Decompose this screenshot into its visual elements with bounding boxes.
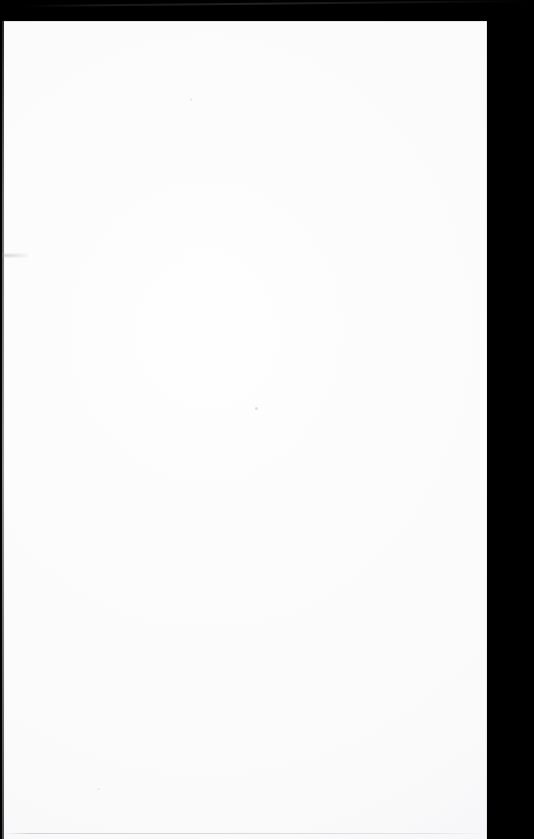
page-body-text	[2, 21, 3, 22]
scanner-background-right-band	[487, 0, 534, 839]
left-edge-line-artifact	[2, 21, 4, 839]
left-margin-smudge-artifact	[2, 253, 28, 258]
scanner-background-top-band	[0, 0, 534, 22]
dust-speck-artifact-lower	[97, 788, 100, 790]
dust-speck-artifact-center	[255, 407, 258, 410]
bottom-edge-line-artifact	[2, 833, 487, 834]
dust-speck-artifact-upper	[190, 98, 192, 101]
page-right-edge	[486, 21, 487, 839]
page-top-edge	[2, 21, 487, 22]
scan-viewport	[0, 0, 534, 839]
scanned-page	[2, 21, 487, 839]
page-illumination-shading	[2, 21, 487, 839]
